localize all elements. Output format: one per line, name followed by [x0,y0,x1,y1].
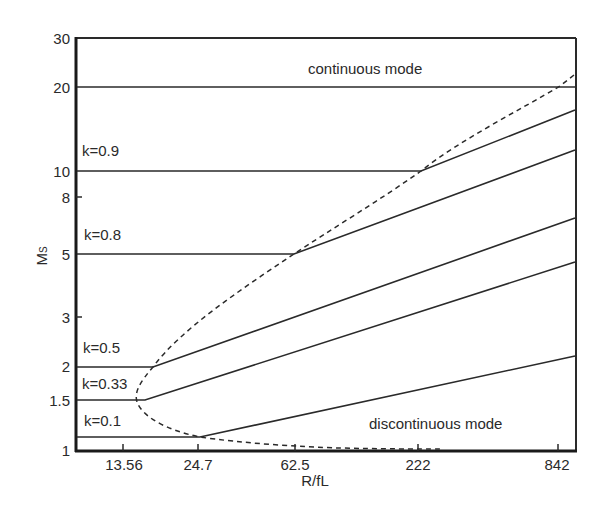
x-tick-222: 222 [405,456,430,473]
series-lines [77,87,575,437]
y-tick-30: 30 [53,30,70,47]
chart: 30 20 10 8 5 3 2 1.5 1 MS 13.56 24.7 62.… [0,0,613,513]
label-k0.1: k=0.1 [84,412,121,429]
x-tick-62.5: 62.5 [280,456,309,473]
series-k0.33 [77,262,575,400]
annotation-continuous-mode: continuous mode [308,60,422,77]
y-axis-title-sub: S [38,246,49,253]
series-k0.8 [77,150,575,254]
y-tick-1: 1 [62,442,70,459]
y-tick-1.5: 1.5 [49,392,70,409]
x-tick-13.56: 13.56 [105,456,143,473]
y-tick-2: 2 [62,358,70,375]
x-axis-title: R/fL [301,472,329,489]
x-tick-842: 842 [544,456,569,473]
annotation-discontinuous-mode: discontinuous mode [369,415,502,432]
mode-boundary-dashed-curve [136,75,574,449]
y-axis-title-main: M [33,253,50,266]
svg-text:MS: MS [33,246,50,266]
label-k0.5: k=0.5 [83,339,120,356]
y-tick-labels: 30 20 10 8 5 3 2 1.5 1 [49,30,70,459]
y-axis-title: MS [33,246,50,266]
series-k0.5 [77,218,575,367]
y-tick-5: 5 [62,246,70,263]
x-tick-labels: 13.56 24.7 62.5 222 842 [105,456,569,473]
y-tick-3: 3 [62,309,70,326]
x-tick-24.7: 24.7 [183,456,212,473]
series-k0.9 [77,110,575,171]
label-k0.8: k=0.8 [84,226,121,243]
label-k0.9: k=0.9 [82,142,119,159]
y-tick-20: 20 [53,79,70,96]
y-tick-10: 10 [53,163,70,180]
label-k0.33: k=0.33 [82,375,127,392]
y-tick-8: 8 [62,189,70,206]
series-labels: k=0.9 k=0.8 k=0.5 k=0.33 k=0.1 [82,142,127,429]
